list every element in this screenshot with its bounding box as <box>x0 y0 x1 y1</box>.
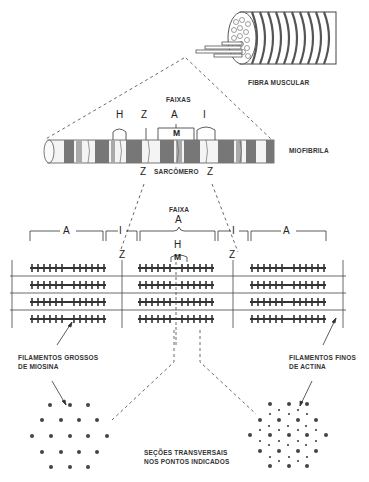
label-band-a-right: A <box>283 226 290 236</box>
muscle-fiber-illustration <box>196 12 336 64</box>
label-thick-filaments-1: FILAMENTOS GROSSOS <box>18 355 98 362</box>
label-band-a-left: A <box>63 226 70 236</box>
cross-section-thick-thin <box>248 402 328 468</box>
label-z-right: Z <box>207 167 213 177</box>
label-z-line-right: Z <box>229 250 235 260</box>
label-thin-filaments-1: FILAMENTOS FINOS <box>289 355 356 362</box>
label-band-h-sarcomere: H <box>174 240 181 250</box>
label-z-line-left: Z <box>119 250 125 260</box>
label-band-a: A <box>171 110 178 120</box>
cross-section-thick <box>30 403 109 469</box>
label-band-i-right: I <box>232 226 235 236</box>
pointer-arrows <box>52 318 336 406</box>
myofibril-illustration <box>44 140 274 163</box>
cross-section-lines <box>112 330 256 420</box>
label-band-z: Z <box>141 110 147 120</box>
label-thin-filaments-2: DE ACTINA <box>289 364 326 371</box>
label-band-i-left: I <box>119 226 122 236</box>
label-cross-sections-2: NOS PONTOS INDICADOS <box>144 459 230 466</box>
label-fibra-muscular: FIBRA MUSCULAR <box>248 80 309 87</box>
sarcomere-grid <box>10 260 346 328</box>
label-miofibrila: MIOFIBRILA <box>289 148 329 155</box>
label-band-a-center: A <box>175 215 182 225</box>
label-faixas: FAIXAS <box>166 97 191 104</box>
label-sarcomero: SARCÔMERO <box>154 169 199 176</box>
sarcomere-diagram <box>0 0 369 482</box>
label-band-i: I <box>203 110 206 120</box>
label-cross-sections-1: SEÇÕES TRANSVERSAIS <box>144 450 228 457</box>
label-band-m-sarcomere: M <box>174 253 181 262</box>
band-brackets-top <box>113 124 215 140</box>
label-faixa: FAIXA <box>169 207 189 214</box>
thick-filaments <box>30 264 326 323</box>
label-z-left: Z <box>140 167 146 177</box>
label-thick-filaments-2: DE MIOSINA <box>18 364 59 371</box>
label-band-h: H <box>116 110 123 120</box>
label-m-top: M <box>173 129 180 138</box>
